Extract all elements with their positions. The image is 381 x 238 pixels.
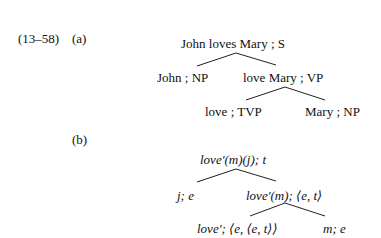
branch-b-root-right <box>236 169 276 181</box>
branch-a-root-left <box>197 53 236 66</box>
branch-b-vp-right <box>285 203 325 216</box>
branch-b-root-left <box>197 169 236 182</box>
branch-b-vp-left <box>250 203 285 216</box>
branch-a-root-right <box>236 53 276 65</box>
tree-branches <box>0 0 381 238</box>
branch-a-vp-right <box>285 87 325 100</box>
branch-a-vp-left <box>246 87 285 100</box>
